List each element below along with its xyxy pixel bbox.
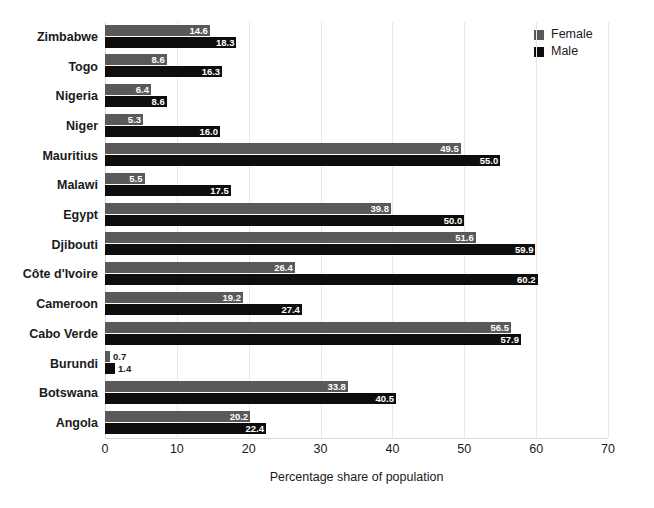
category-label: Egypt (2, 200, 98, 230)
category-label: Côte d'Ivoire (2, 260, 98, 290)
bar-male[interactable]: 8.6 (105, 96, 167, 107)
bar-male[interactable]: 18.3 (105, 37, 236, 48)
bar-female[interactable]: 5.3 (105, 114, 143, 125)
bar-value-label: 59.9 (515, 244, 536, 255)
x-axis-ticks: 010203040506070 (105, 442, 608, 462)
category-label: Malawi (2, 171, 98, 201)
category-label: Mauritius (2, 141, 98, 171)
x-tick-label: 50 (457, 442, 471, 456)
bar-value-label: 51.6 (455, 232, 476, 243)
category-label: Niger (2, 111, 98, 141)
bar-value-label: 6.4 (136, 84, 151, 95)
bar-female[interactable]: 39.8 (105, 203, 391, 214)
bar-male[interactable]: 1.4 (105, 363, 115, 374)
bar-female[interactable]: 6.4 (105, 84, 151, 95)
gridline (608, 22, 609, 438)
chart-row: Burundi0.71.4 (105, 349, 608, 379)
bar-value-label: 40.5 (376, 393, 397, 404)
bar-female[interactable]: 19.2 (105, 292, 243, 303)
bar-value-label: 22.4 (245, 423, 266, 434)
bar-value-label: 8.6 (152, 54, 167, 65)
bar-female[interactable]: 56.5 (105, 322, 511, 333)
x-axis-title: Percentage share of population (105, 470, 608, 484)
bar-female[interactable]: 26.4 (105, 262, 295, 273)
bar-male[interactable]: 27.4 (105, 304, 302, 315)
chart-row: Togo8.616.3 (105, 52, 608, 82)
bar-value-label: 50.0 (444, 215, 465, 226)
x-tick-label: 30 (314, 442, 328, 456)
bar-female[interactable]: 20.2 (105, 411, 250, 422)
bar-value-label: 5.3 (128, 114, 143, 125)
bar-value-label: 16.0 (199, 126, 220, 137)
bar-value-label: 39.8 (370, 203, 391, 214)
bar-value-label: 1.4 (115, 363, 131, 374)
bar-male[interactable]: 50.0 (105, 215, 464, 226)
bar-female[interactable]: 14.6 (105, 25, 210, 36)
x-tick-label: 0 (102, 442, 109, 456)
bar-value-label: 20.2 (230, 411, 251, 422)
bar-female[interactable]: 0.7 (105, 351, 110, 362)
category-label: Djibouti (2, 230, 98, 260)
chart-row: Niger5.316.0 (105, 111, 608, 141)
bar-value-label: 0.7 (110, 351, 126, 362)
bar-value-label: 8.6 (152, 96, 167, 107)
bar-value-label: 57.9 (501, 334, 522, 345)
bar-female[interactable]: 8.6 (105, 54, 167, 65)
plot-area: Zimbabwe14.618.3Togo8.616.3Nigeria6.48.6… (105, 22, 608, 438)
bar-male[interactable]: 40.5 (105, 393, 396, 404)
x-axis-line (105, 438, 608, 439)
chart-row: Côte d'Ivoire26.460.2 (105, 260, 608, 290)
bar-female[interactable]: 51.6 (105, 232, 476, 243)
category-label: Togo (2, 52, 98, 82)
chart-row: Egypt39.850.0 (105, 200, 608, 230)
bar-male[interactable]: 17.5 (105, 185, 231, 196)
chart-row: Botswana33.840.5 (105, 378, 608, 408)
category-label: Cameroon (2, 289, 98, 319)
bar-value-label: 17.5 (210, 185, 231, 196)
category-label: Nigeria (2, 81, 98, 111)
bar-value-label: 14.6 (189, 25, 210, 36)
category-label: Cabo Verde (2, 319, 98, 349)
bar-value-label: 55.0 (480, 155, 501, 166)
bar-male[interactable]: 59.9 (105, 244, 535, 255)
chart-row: Djibouti51.659.9 (105, 230, 608, 260)
bar-male[interactable]: 16.0 (105, 126, 220, 137)
x-tick-label: 40 (385, 442, 399, 456)
chart-row: Mauritius49.555.0 (105, 141, 608, 171)
bar-value-label: 27.4 (281, 304, 302, 315)
category-label: Burundi (2, 349, 98, 379)
bar-value-label: 56.5 (490, 322, 511, 333)
bar-female[interactable]: 49.5 (105, 143, 461, 154)
bar-female[interactable]: 33.8 (105, 381, 348, 392)
category-label: Botswana (2, 378, 98, 408)
x-tick-label: 10 (170, 442, 184, 456)
chart-row: Malawi5.517.5 (105, 171, 608, 201)
x-tick-label: 60 (529, 442, 543, 456)
x-tick-label: 70 (601, 442, 615, 456)
chart-row: Nigeria6.48.6 (105, 81, 608, 111)
bar-male[interactable]: 55.0 (105, 155, 500, 166)
bar-male[interactable]: 16.3 (105, 66, 222, 77)
category-label: Zimbabwe (2, 22, 98, 52)
bar-value-label: 49.5 (440, 143, 461, 154)
bar-male[interactable]: 60.2 (105, 274, 538, 285)
bar-value-label: 26.4 (274, 262, 295, 273)
chart-figure: Female Male Zimbabwe14.618.3Togo8.616.3N… (0, 0, 654, 508)
bar-value-label: 5.5 (129, 173, 144, 184)
bar-male[interactable]: 57.9 (105, 334, 521, 345)
bar-value-label: 60.2 (517, 274, 538, 285)
chart-row: Cabo Verde56.557.9 (105, 319, 608, 349)
bar-value-label: 33.8 (327, 381, 348, 392)
chart-row: Angola20.222.4 (105, 408, 608, 438)
chart-row: Zimbabwe14.618.3 (105, 22, 608, 52)
bar-value-label: 18.3 (216, 37, 237, 48)
chart-row: Cameroon19.227.4 (105, 289, 608, 319)
bar-female[interactable]: 5.5 (105, 173, 145, 184)
x-tick-label: 20 (242, 442, 256, 456)
chart-title (0, 0, 500, 3)
category-label: Angola (2, 408, 98, 438)
bar-male[interactable]: 22.4 (105, 423, 266, 434)
bar-value-label: 19.2 (222, 292, 243, 303)
bar-value-label: 16.3 (202, 66, 223, 77)
